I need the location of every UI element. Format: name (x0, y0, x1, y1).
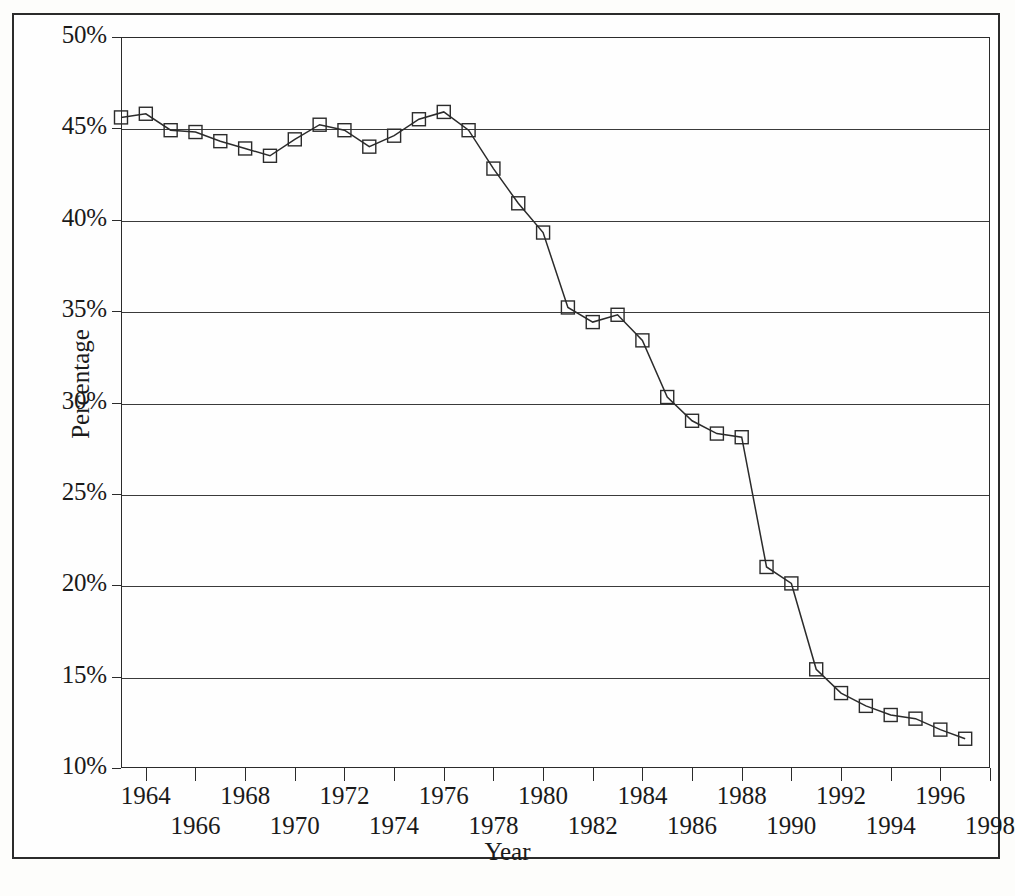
x-tick-mark (195, 768, 196, 781)
x-tick-label: 1974 (369, 812, 419, 840)
x-tick-mark (692, 768, 693, 781)
x-tick-mark (841, 768, 842, 781)
gridline (122, 678, 989, 679)
x-tick-mark (891, 768, 892, 781)
x-tick-label: 1998 (965, 812, 1015, 840)
gridline (122, 221, 989, 222)
x-tick-mark (990, 768, 991, 781)
x-tick-label: 1964 (121, 782, 171, 810)
x-tick-mark (593, 768, 594, 781)
y-tick-mark (112, 37, 121, 38)
x-tick-label: 1996 (915, 782, 965, 810)
x-tick-label: 1968 (220, 782, 270, 810)
x-tick-mark (444, 768, 445, 781)
x-tick-mark (493, 768, 494, 781)
x-tick-mark (642, 768, 643, 781)
gridline (122, 129, 989, 130)
x-tick-label: 1986 (667, 812, 717, 840)
x-tick-label: 1976 (419, 782, 469, 810)
x-tick-label: 1994 (866, 812, 916, 840)
x-tick-label: 1982 (568, 812, 618, 840)
x-tick-mark (295, 768, 296, 781)
gridline (122, 404, 989, 405)
x-tick-mark (940, 768, 941, 781)
y-tick-mark (112, 585, 121, 586)
y-tick-mark (112, 220, 121, 221)
y-tick-mark (112, 494, 121, 495)
y-axis-title-wrap: Percentage (14, 0, 54, 768)
y-tick-mark (112, 311, 121, 312)
y-tick-mark (112, 677, 121, 678)
y-tick-label: 40% (62, 204, 107, 232)
x-tick-mark (394, 768, 395, 781)
x-tick-label: 1988 (717, 782, 767, 810)
gridline (122, 495, 989, 496)
y-tick-mark (112, 403, 121, 404)
x-tick-label: 1984 (617, 782, 667, 810)
y-tick-label: 15% (62, 661, 107, 689)
x-tick-label: 1980 (518, 782, 568, 810)
y-tick-mark (112, 768, 121, 769)
x-tick-label: 1966 (170, 812, 220, 840)
x-tick-label: 1992 (816, 782, 866, 810)
x-tick-mark (344, 768, 345, 781)
x-tick-mark (543, 768, 544, 781)
chart-figure: Percentage 50%45%40%35%30%25%20%15%10% 1… (0, 0, 1015, 896)
x-tick-label: 1970 (270, 812, 320, 840)
y-tick-label: 45% (62, 112, 107, 140)
y-tick-label: 50% (62, 21, 107, 49)
y-tick-label: 25% (62, 478, 107, 506)
figure-page: Percentage 50%45%40%35%30%25%20%15%10% 1… (0, 0, 1015, 896)
x-axis-title: Year (0, 838, 1015, 866)
x-tick-mark (791, 768, 792, 781)
x-tick-label: 1972 (319, 782, 369, 810)
x-tick-mark (245, 768, 246, 781)
y-tick-label: 35% (62, 295, 107, 323)
x-tick-label: 1990 (766, 812, 816, 840)
plot-area (121, 37, 990, 768)
gridline (122, 312, 989, 313)
y-axis-title: Percentage (67, 329, 95, 439)
x-tick-label: 1978 (468, 812, 518, 840)
y-tick-label: 20% (62, 569, 107, 597)
x-tick-mark (742, 768, 743, 781)
y-tick-label: 10% (62, 752, 107, 780)
x-tick-mark (146, 768, 147, 781)
gridline (122, 586, 989, 587)
y-tick-mark (112, 128, 121, 129)
y-tick-label: 30% (62, 387, 107, 415)
